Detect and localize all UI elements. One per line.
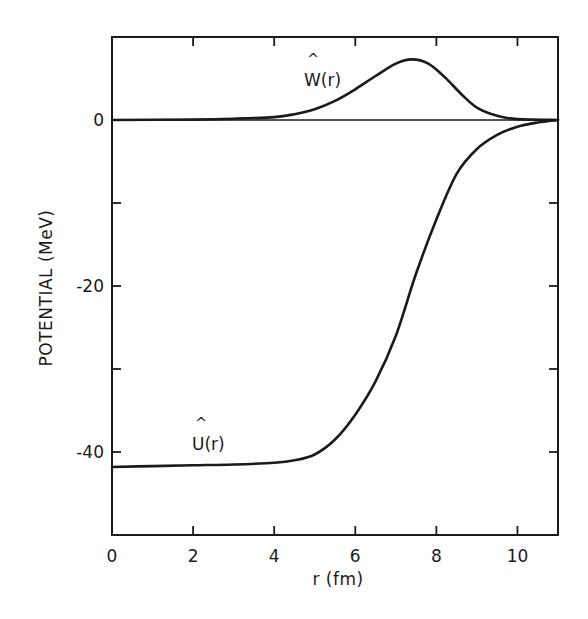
x-tick-label: 8 bbox=[431, 546, 442, 566]
u-curve bbox=[112, 120, 558, 467]
y-tick-label: -20 bbox=[76, 276, 104, 296]
x-tick-label: 0 bbox=[107, 546, 118, 566]
w-curve-label: ^ W(r) bbox=[304, 51, 341, 90]
x-axis-title: r (fm) bbox=[312, 569, 363, 589]
potential-chart: 02468100-20-40 r (fm) POTENTIAL (MeV) ^ … bbox=[0, 0, 588, 619]
y-tick-label: 0 bbox=[93, 110, 104, 130]
plot-frame bbox=[112, 37, 558, 535]
u-hat-accent: ^ bbox=[195, 415, 207, 431]
x-tick-label: 4 bbox=[269, 546, 280, 566]
u-curve-label: ^ U(r) bbox=[192, 415, 225, 454]
w-hat-accent: ^ bbox=[307, 51, 319, 67]
y-tick-label: -40 bbox=[76, 442, 104, 462]
x-tick-label: 2 bbox=[188, 546, 199, 566]
plot-border bbox=[112, 37, 558, 535]
axis-ticks bbox=[112, 37, 558, 535]
x-tick-label: 10 bbox=[507, 546, 529, 566]
w-label-text: W(r) bbox=[304, 70, 341, 90]
tick-labels: 02468100-20-40 bbox=[76, 110, 528, 566]
y-axis-title: POTENTIAL (MeV) bbox=[36, 210, 56, 367]
u-label-text: U(r) bbox=[192, 434, 225, 454]
x-tick-label: 6 bbox=[350, 546, 361, 566]
